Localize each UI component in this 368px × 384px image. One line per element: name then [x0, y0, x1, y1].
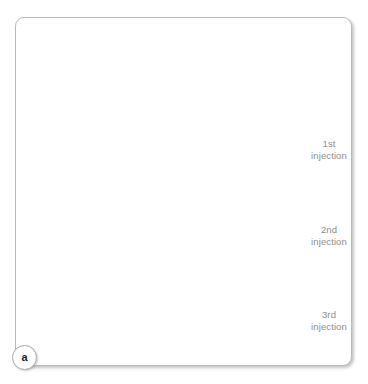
label-third-injection-line1: 3rd: [298, 309, 360, 321]
panel-label-badge: a: [12, 345, 37, 370]
label-third-injection-line2: injection: [298, 321, 360, 333]
label-first-injection: 1st injection: [298, 138, 360, 161]
label-first-injection-line1: 1st: [298, 138, 360, 150]
label-second-injection-line2: injection: [298, 236, 360, 248]
label-third-injection: 3rd injection: [298, 309, 360, 332]
label-second-injection: 2nd injection: [298, 224, 360, 247]
panel-label-badge-text: a: [13, 346, 36, 369]
label-second-injection-line1: 2nd: [298, 224, 360, 236]
label-first-injection-line2: injection: [298, 150, 360, 162]
figure-panel: 1st injection 2nd injection 3rd injectio…: [0, 0, 368, 384]
